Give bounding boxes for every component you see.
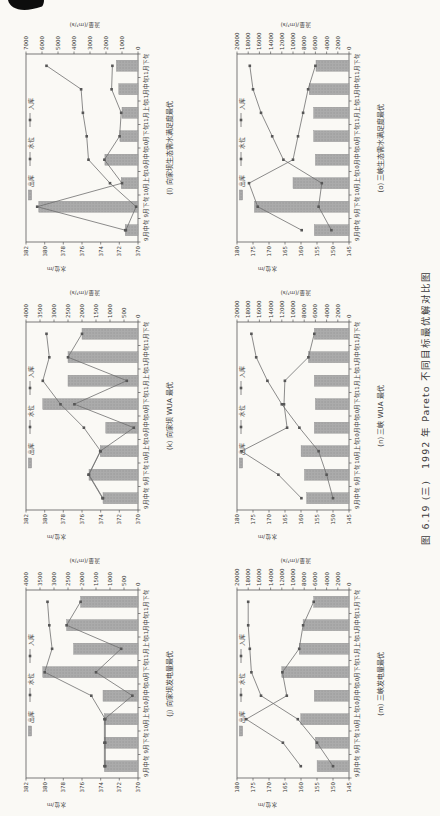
inflow-line-marker — [312, 601, 315, 604]
level-tick-label: 175 — [250, 246, 256, 257]
flow-axis: 0200040006000800010000120001400016000180… — [234, 568, 352, 590]
legend: 出库 水位 入库 — [27, 366, 35, 468]
category-label: 11月中旬 — [142, 345, 150, 370]
category-labels: 9月中旬9月下旬10月上旬10月中旬10月下旬11月上旬11月中旬11月下旬 — [142, 321, 150, 509]
outflow-bar — [254, 201, 349, 212]
category-label: 10月中旬 — [353, 147, 361, 172]
outflow-bar — [81, 596, 138, 607]
chart-title: (k) 向家坝 WUA 最优 — [165, 382, 174, 450]
inflow-line-marker — [240, 450, 243, 453]
flow-tick-label: 14000 — [268, 32, 274, 50]
level-tick-label: 175 — [250, 782, 256, 793]
level-tick-label: 370 — [135, 782, 141, 793]
inflow-line — [240, 333, 315, 500]
legend-marker-2 — [240, 387, 243, 390]
chart-title: (l) 向家坝生态需水满足度最优 — [165, 101, 174, 195]
level-tick-label: 380 — [42, 246, 48, 257]
inflow-line-marker — [103, 741, 106, 744]
inflow-line-marker — [133, 426, 136, 429]
flow-tick-label: 10000 — [290, 300, 296, 318]
category-label: 11月下旬 — [353, 321, 361, 346]
category-label: 9月下旬 — [353, 464, 361, 486]
level-axis: 370372374376378380382 — [23, 778, 141, 793]
outflow-bar — [67, 620, 138, 631]
inflow-line-marker — [103, 158, 106, 161]
inflow-line-marker — [36, 205, 39, 208]
flow-tick-label: 4000 — [23, 572, 29, 586]
category-label: 10月上旬 — [353, 439, 361, 464]
inflow-line-marker — [277, 473, 280, 476]
category-label: 9月下旬 — [353, 732, 361, 754]
chart-o-sanxia-eco: 出库 水位 入库14515015516016517017518002000400… — [231, 14, 436, 276]
chart-row-bottom: 出库 水位 入库14515015516016517017518002000400… — [231, 14, 436, 812]
category-label: 9月中旬 — [353, 487, 361, 509]
category-label: 10月上旬 — [142, 171, 150, 196]
inflow-line-marker — [79, 601, 82, 604]
outflow-bar — [282, 667, 349, 678]
chart-svg-m: 出库 水位 入库14515015516016517017518002000400… — [231, 550, 436, 812]
flow-axis-title: 流量/(m³/s) — [70, 21, 100, 29]
plot-border — [237, 54, 349, 242]
flow-tick-label: 20000 — [234, 300, 240, 318]
outflow-bar — [308, 352, 349, 363]
level-tick-label: 180 — [234, 514, 240, 525]
level-tick-label: 155 — [314, 246, 320, 257]
level-axis: 370372374376378380382 — [23, 510, 141, 525]
flow-tick-label: 0 — [135, 46, 141, 50]
inflow-line-marker — [302, 112, 305, 115]
flow-tick-label: 12000 — [279, 568, 285, 586]
legend-bar-swatch — [239, 726, 242, 736]
legend-label-inflow: 入库 — [27, 634, 35, 646]
outflow-bar — [43, 667, 138, 678]
level-tick-label: 170 — [266, 246, 272, 257]
legend-label-inflow: 入库 — [27, 366, 35, 378]
level-line-marker — [317, 450, 320, 453]
level-tick-label: 180 — [234, 782, 240, 793]
legend-marker-2 — [240, 119, 243, 122]
level-line-marker — [297, 718, 300, 721]
flow-axis-title: 流量/(m³/s) — [281, 21, 311, 29]
level-line-marker — [109, 182, 112, 185]
inflow-line-marker — [300, 229, 303, 232]
outflow-bar — [314, 107, 349, 118]
level-line-marker — [255, 356, 258, 359]
legend-label-outflow: 出库 — [27, 443, 35, 455]
flow-tick-label: 2000 — [335, 304, 341, 318]
inflow-line-marker — [99, 450, 102, 453]
category-label: 11月上旬 — [353, 100, 361, 125]
flow-tick-label: 2500 — [65, 304, 71, 318]
level-tick-label: 378 — [60, 782, 66, 793]
level-tick-label: 155 — [314, 782, 320, 793]
legend-label-inflow: 入库 — [238, 634, 246, 646]
inflow-line-marker — [248, 182, 251, 185]
legend: 出库 水位 入库 — [238, 634, 246, 736]
level-line-marker — [332, 497, 335, 500]
inflow-line-marker — [131, 694, 134, 697]
legend-marker — [29, 694, 32, 697]
flow-tick-label: 8000 — [301, 572, 307, 586]
flow-tick-label: 6000 — [312, 304, 318, 318]
level-tick-label: 160 — [298, 782, 304, 793]
flow-tick-label: 1500 — [93, 304, 99, 318]
level-tick-label: 370 — [135, 514, 141, 525]
flow-tick-label: 2000 — [79, 304, 85, 318]
flow-tick-label: 18000 — [245, 568, 251, 586]
category-label: 11月下旬 — [142, 589, 150, 614]
level-line-marker — [48, 356, 51, 359]
category-label: 10月下旬 — [142, 660, 150, 685]
level-tick-label: 380 — [42, 782, 48, 793]
level-tick-label: 382 — [23, 514, 29, 525]
category-labels: 9月中旬9月下旬10月上旬10月中旬10月下旬11月上旬11月中旬11月下旬 — [353, 53, 361, 241]
chart-title: (n) 三峡 WUA 最优 — [376, 385, 385, 446]
outflow-bar — [122, 107, 138, 118]
inflow-line-marker — [307, 88, 310, 91]
flow-tick-label: 0 — [135, 314, 141, 318]
outflow-bar — [314, 690, 349, 701]
plot-border — [237, 322, 349, 510]
level-tick-label: 160 — [298, 514, 304, 525]
category-label: 10月上旬 — [142, 439, 150, 464]
chart-svg-k: 出库 水位 入库37037237437637838038205001000150… — [20, 282, 225, 544]
figure-landscape: 出库 水位 入库37037237437637838038205001000150… — [0, 0, 440, 816]
level-line-marker — [271, 135, 274, 138]
inflow-line-marker — [118, 135, 121, 138]
